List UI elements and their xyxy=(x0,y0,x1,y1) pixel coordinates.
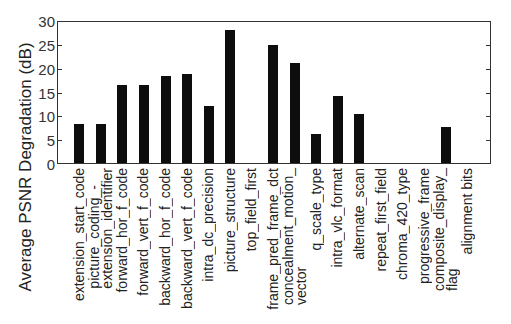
y-tick-mark xyxy=(58,45,62,46)
x-tick-label: intra_dc_precision xyxy=(202,168,215,282)
y-tick-mark-right xyxy=(486,93,490,94)
x-tick-label: intra_vlc_format xyxy=(331,168,344,268)
x-tick-label: forward_hor_f_code xyxy=(116,168,129,293)
y-tick-label: 30 xyxy=(38,13,55,30)
x-tick-label: extension_start_code xyxy=(73,168,86,301)
bar xyxy=(204,106,214,163)
y-tick-mark xyxy=(58,93,62,94)
y-tick-label: 10 xyxy=(38,108,55,125)
y-tick-mark-right xyxy=(486,140,490,141)
bar xyxy=(333,96,343,163)
x-tick-label: q_scale_type xyxy=(310,168,323,251)
x-tick-label: top_field_first xyxy=(245,168,258,251)
bar xyxy=(268,45,278,163)
x-tick-label: backward_hor_f_code xyxy=(159,168,172,306)
x-tick-label: chroma_420_type xyxy=(396,168,409,280)
x-tick-label: composite_display_ flag xyxy=(433,168,459,291)
bar xyxy=(441,127,451,163)
bar xyxy=(139,85,149,163)
bar xyxy=(74,124,84,163)
x-tick-label: repeat_first_field xyxy=(375,168,388,272)
y-tick-label: 5 xyxy=(47,132,55,149)
y-tick-mark-right xyxy=(486,116,490,117)
x-tick-label: forward_vert_f_code xyxy=(137,168,150,296)
y-tick-label: 15 xyxy=(38,84,55,101)
y-tick-label: 20 xyxy=(38,60,55,77)
x-tick-label: backward_vert_f_code xyxy=(181,168,194,309)
bar xyxy=(117,85,127,163)
y-tick-label: 0 xyxy=(47,156,55,173)
y-axis-label: Average PSNR Degradation (dB) xyxy=(16,42,36,291)
bar xyxy=(161,76,171,163)
bar-chart: Average PSNR Degradation (dB) 0510152025… xyxy=(0,0,511,324)
x-tick-label: picture_coding_- extension_identifier xyxy=(88,168,114,289)
bar xyxy=(354,114,364,163)
y-tick-label: 25 xyxy=(38,36,55,53)
y-tick-mark xyxy=(58,116,62,117)
bar xyxy=(96,124,106,163)
y-tick-mark-right xyxy=(486,45,490,46)
bar xyxy=(182,74,192,163)
y-tick-mark xyxy=(58,140,62,141)
bar xyxy=(225,30,235,163)
y-tick-mark-right xyxy=(486,69,490,70)
x-tick-label: alternate_scan xyxy=(353,168,366,260)
plot-area xyxy=(57,21,491,164)
x-tick-label: progressive_frame xyxy=(418,168,431,284)
x-tick-label: frame_pred_frame_dct xyxy=(267,168,280,310)
y-tick-mark xyxy=(58,69,62,70)
bar xyxy=(290,63,300,163)
x-tick-label: picture_structure xyxy=(224,168,237,272)
bar xyxy=(311,134,321,163)
x-tick-label: alignment bits xyxy=(461,168,474,254)
x-tick-label: concealment_motion_ vector xyxy=(282,168,308,305)
